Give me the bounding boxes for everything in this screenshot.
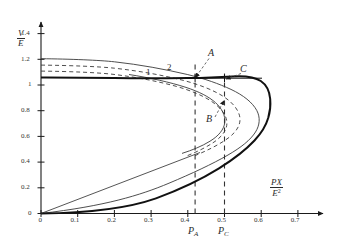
axis-marker-pc: PC	[218, 226, 229, 238]
axis-marker-pa: PA	[188, 226, 198, 238]
leader-a	[195, 59, 209, 78]
y-tick-label-0_4: 0.4	[21, 158, 30, 165]
curve-main-thick-lower	[41, 118, 268, 214]
point-label-a: A	[208, 48, 214, 58]
curve-label-2: 2	[167, 63, 172, 72]
x-tick-label-0_4: 0.4	[181, 217, 190, 224]
x-axis-label-denominator: E2	[270, 188, 283, 198]
y-tick-label-0_6: 0.6	[21, 133, 30, 140]
y-tick-label-1_2: 1.2	[21, 56, 30, 63]
curve-label-1: 1	[146, 68, 151, 77]
x-tick-label-0_3: 0.3	[144, 217, 153, 224]
y-tick-label-0_8: 0.8	[21, 107, 30, 114]
curve-outer-thin	[41, 59, 259, 214]
chart-canvas	[0, 0, 342, 249]
point-label-b: B	[206, 114, 212, 124]
x-tick-label-0: 0	[39, 217, 43, 224]
x-tick-label-0_6: 0.6	[254, 217, 263, 224]
curve-dashed-1	[41, 71, 227, 156]
x-tick-label-0_7: 0.7	[291, 217, 300, 224]
figure-container: V E PX E2 0 0.2 0.4 0.6 0.8 1 1.2 1.4 0 …	[0, 0, 342, 249]
x-tick-label-0_1: 0.1	[71, 217, 80, 224]
y-tick-label-0_2: 0.2	[21, 184, 30, 191]
point-label-c: C	[240, 64, 247, 74]
x-tick-label-0_2: 0.2	[107, 217, 116, 224]
y-tick-label-1: 1	[28, 81, 32, 88]
x-axis-label: PX E2	[270, 178, 283, 199]
y-axis-label-denominator: E	[17, 39, 25, 48]
y-tick-label-1_4: 1.4	[21, 30, 30, 37]
curve-main-thick-upper	[41, 76, 270, 118]
y-tick-label-0: 0	[28, 210, 32, 217]
x-tick-label-0_5: 0.5	[217, 217, 226, 224]
x-axis-label-numerator: PX	[270, 178, 283, 188]
origin-chord	[41, 153, 200, 214]
